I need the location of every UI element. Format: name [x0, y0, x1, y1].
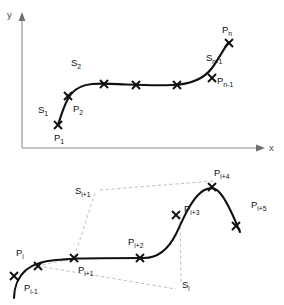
marker-pn-1 — [208, 74, 216, 82]
marker-pi+3 — [172, 211, 180, 219]
figure-top: y x — [7, 9, 274, 153]
label-pi-1: Pi-1 — [24, 282, 38, 295]
label-pn-1: Pn-1 — [217, 75, 233, 88]
spline-curve-bottom — [14, 188, 240, 298]
label-s1: S1 — [38, 104, 48, 117]
label-pn: Pn — [222, 24, 232, 37]
label-si: Si — [182, 279, 190, 292]
label-pi+2: Pi+2 — [128, 236, 144, 249]
spline-curve-top — [58, 42, 229, 125]
label-p2: P2 — [73, 103, 83, 116]
x-axis-label: x — [269, 142, 274, 153]
label-pi+3: Pi+3 — [184, 203, 200, 216]
label-pi+5: Pi+5 — [251, 199, 267, 212]
label-s2: S2 — [71, 57, 81, 70]
label-pi+1: Pi+1 — [78, 264, 94, 277]
marker-pi-1 — [10, 272, 18, 280]
label-p1: P1 — [54, 132, 64, 145]
y-axis-arrowhead — [19, 12, 26, 21]
dashed-line-pi-to-si — [38, 266, 176, 289]
spline-figures: y x — [0, 0, 284, 305]
y-axis-label: y — [7, 9, 12, 20]
label-si+1: Si+1 — [75, 185, 91, 198]
label-pi+4: Pi+4 — [214, 167, 230, 180]
figure-bottom: Si+1 Si Pi-1 Pi Pi+1 Pi+2 Pi+3 Pi+4 Pi+5 — [10, 167, 267, 298]
marker-pn — [225, 39, 233, 47]
x-axis-arrowhead — [256, 145, 265, 152]
label-pi: Pi — [16, 247, 24, 260]
dashed-line-sip1-to-pip1 — [74, 193, 95, 258]
label-sn-1: Sn-1 — [206, 52, 222, 65]
diagram-page: y x — [0, 0, 284, 305]
dashed-line-sip1-to-pip4 — [100, 181, 213, 190]
marker-pi+4 — [208, 183, 216, 191]
